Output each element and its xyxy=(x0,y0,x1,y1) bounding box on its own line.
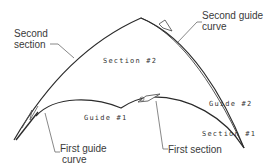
callout-first-guide-line1: First guide xyxy=(60,143,107,154)
callout-second-section-line1: Second xyxy=(14,28,48,39)
callout-second-section-line2: section xyxy=(14,39,46,50)
label-guide-2: Guide #2 xyxy=(209,100,252,108)
first-guide-marker-icon xyxy=(22,106,38,128)
callout-first-section: First section xyxy=(168,144,222,155)
leader-first-guide-curve xyxy=(45,113,60,152)
label-section-2: Section #2 xyxy=(103,57,157,65)
label-guide-1: Guide #1 xyxy=(84,114,127,122)
callout-first-guide-line2: curve xyxy=(62,154,87,165)
first-guide-curve xyxy=(16,112,38,140)
callout-second-guide-line2: curve xyxy=(202,21,227,32)
second-section-curve xyxy=(14,18,244,148)
leader-first-section xyxy=(156,101,168,149)
loft-diagram: Second section Second guide curve First … xyxy=(0,0,274,167)
callout-second-guide-line1: Second guide xyxy=(202,10,264,21)
leader-second-section xyxy=(50,44,74,58)
leader-second-guide-curve xyxy=(178,22,202,42)
label-section-1: Section #1 xyxy=(202,130,256,138)
